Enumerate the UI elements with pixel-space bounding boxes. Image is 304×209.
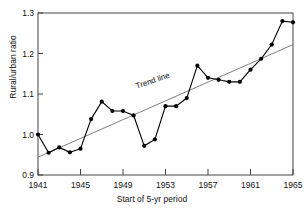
data-point-marker xyxy=(100,100,104,104)
x-axis-title: Start of 5-yr period xyxy=(0,194,304,204)
x-axis-ticks xyxy=(38,169,293,175)
data-point-marker xyxy=(291,20,295,24)
data-point-marker xyxy=(185,96,189,100)
data-point-marker xyxy=(110,109,114,113)
data-point-marker xyxy=(57,145,61,149)
data-point-marker xyxy=(78,147,82,151)
data-point-marker xyxy=(89,117,93,121)
data-point-marker xyxy=(121,109,125,113)
data-point-marker xyxy=(36,132,40,136)
data-point-marker xyxy=(238,80,242,84)
x-tick-label: 1941 xyxy=(18,180,58,190)
x-tick-label: 1961 xyxy=(231,180,271,190)
x-tick-label: 1945 xyxy=(61,180,101,190)
data-point-marker xyxy=(206,76,210,80)
data-point-marker xyxy=(259,57,263,61)
data-point-marker xyxy=(280,19,284,23)
y-tick-label: 1.0 xyxy=(12,130,34,140)
x-tick-label: 1949 xyxy=(103,180,143,190)
y-axis-ticks xyxy=(38,13,43,175)
data-point-markers xyxy=(36,19,295,155)
data-line-rural-urban-ratio xyxy=(38,21,293,153)
data-point-marker xyxy=(68,150,72,154)
x-tick-label: 1953 xyxy=(146,180,186,190)
data-point-marker xyxy=(132,113,136,117)
x-tick-label: 1957 xyxy=(188,180,228,190)
data-point-marker xyxy=(163,104,167,108)
y-tick-label: 0.9 xyxy=(12,170,34,180)
data-point-marker xyxy=(142,144,146,148)
data-point-marker xyxy=(217,78,221,82)
data-point-marker xyxy=(248,68,252,72)
y-axis-title: Rural/urban ratio xyxy=(8,30,18,104)
data-point-marker xyxy=(270,42,274,46)
x-tick-label: 1965 xyxy=(273,180,304,190)
y-tick-label: 1.3 xyxy=(12,8,34,18)
trend-line xyxy=(38,45,293,158)
data-point-marker xyxy=(227,80,231,84)
data-point-marker xyxy=(174,104,178,108)
data-point-marker xyxy=(153,137,157,141)
chart-figure: 0.91.01.11.21.3 194119451949195319571961… xyxy=(0,0,304,209)
chart-plot-area xyxy=(0,0,304,209)
data-point-marker xyxy=(47,151,51,155)
data-point-marker xyxy=(195,64,199,68)
